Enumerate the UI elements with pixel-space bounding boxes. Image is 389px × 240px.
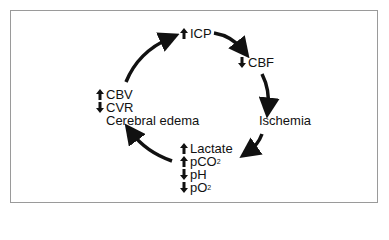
node-icp: ICP [180,27,212,40]
arrow-down-icon [180,182,188,193]
node-vascular: CBVCVRCerebral edema [96,88,199,127]
node-line: Ischemia [249,114,311,127]
node-label: CBF [248,56,274,69]
node-label: Ischemia [259,114,311,127]
arrow-vascular-to-icp [126,38,170,82]
arrow-up-icon [96,89,104,100]
node-label: ICP [190,27,212,40]
arrow-down-icon [180,169,188,180]
arrow-cbf-to-ischemia [262,74,268,108]
arrow-up-icon [180,28,188,39]
node-label: pO [190,181,207,194]
subscript: 2 [217,155,221,168]
node-metabolic: LactatepCO2pHpO2 [180,142,233,194]
arrow-icp-to-cbf [214,33,243,50]
arrow-down-icon [238,57,246,68]
arrow-up-icon [180,156,188,167]
arrow-up-icon [180,143,188,154]
arrow-metabolic-to-vascular [131,132,172,161]
node-line: ICP [180,27,212,40]
node-ischemia: Ischemia [249,114,311,127]
node-line: CBF [238,56,274,69]
arrow-ischemia-to-metabolic [248,134,262,152]
node-cbf: CBF [238,56,274,69]
node-line: Cerebral edema [96,114,199,127]
subscript: 2 [207,181,211,194]
node-line: pO2 [180,181,233,194]
arrow-down-icon [96,102,104,113]
node-label: Cerebral edema [106,114,199,127]
